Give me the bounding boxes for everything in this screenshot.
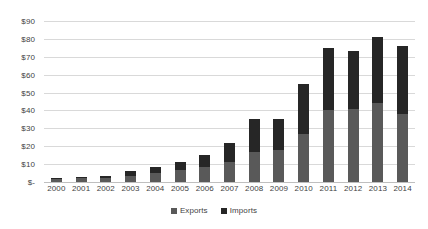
bar-segment-exports[interactable]: [372, 103, 383, 182]
x-axis-tick-label: 2009: [270, 184, 288, 193]
bar-group[interactable]: [51, 178, 62, 182]
bar-segment-exports[interactable]: [76, 178, 87, 182]
bar-segment-exports[interactable]: [298, 134, 309, 182]
x-axis-tick-label: 2014: [394, 184, 412, 193]
bar-group[interactable]: [397, 46, 408, 182]
bar-segment-imports[interactable]: [76, 177, 87, 179]
y-axis-tick-label: $20: [21, 142, 35, 151]
bar-segment-imports[interactable]: [150, 167, 161, 173]
legend-entry[interactable]: Exports: [171, 206, 208, 215]
bar-segment-imports[interactable]: [372, 37, 383, 103]
bar-group[interactable]: [125, 171, 136, 182]
stacked-bar-chart: $-$10$20$30$40$50$60$70$80$90 2000200120…: [0, 0, 428, 229]
bar-segment-imports[interactable]: [224, 143, 235, 163]
bar-segment-exports[interactable]: [150, 173, 161, 182]
x-axis-tick-label: 2001: [72, 184, 90, 193]
y-axis-tick-label: $40: [21, 106, 35, 115]
bar-segment-exports[interactable]: [224, 162, 235, 182]
bar-group[interactable]: [323, 48, 334, 182]
x-axis-tick-label: 2003: [121, 184, 139, 193]
bar-segment-imports[interactable]: [51, 178, 62, 179]
y-axis: $-$10$20$30$40$50$60$70$80$90: [0, 21, 40, 182]
bar-segment-exports[interactable]: [175, 170, 186, 182]
y-axis-tick-label: $70: [21, 52, 35, 61]
bar-group[interactable]: [372, 37, 383, 182]
chart-legend: ExportsImports: [0, 206, 428, 215]
bar-segment-exports[interactable]: [199, 167, 210, 182]
x-axis-tick-label: 2000: [47, 184, 65, 193]
x-axis: 2000200120022003200420052006200720082009…: [44, 184, 415, 200]
bar-segment-imports[interactable]: [397, 46, 408, 114]
bar-segment-imports[interactable]: [323, 48, 334, 111]
bar-segment-exports[interactable]: [51, 179, 62, 182]
legend-swatch-icon: [221, 208, 227, 214]
bar-group[interactable]: [249, 119, 260, 182]
y-axis-tick-label: $80: [21, 34, 35, 43]
x-axis-tick-label: 2011: [320, 184, 338, 193]
y-axis-tick-label: $10: [21, 160, 35, 169]
y-axis-tick-label: $50: [21, 88, 35, 97]
bar-segment-exports[interactable]: [323, 110, 334, 182]
bar-segment-exports[interactable]: [273, 150, 284, 182]
bar-segment-imports[interactable]: [273, 119, 284, 149]
bar-segment-exports[interactable]: [348, 109, 359, 182]
x-axis-tick-label: 2013: [369, 184, 387, 193]
bar-segment-imports[interactable]: [298, 84, 309, 134]
y-axis-tick-label: $-: [28, 178, 35, 187]
bar-segment-imports[interactable]: [199, 155, 210, 167]
bar-group[interactable]: [224, 143, 235, 182]
x-axis-tick-label: 2012: [344, 184, 362, 193]
bar-group[interactable]: [175, 162, 186, 182]
x-axis-tick-label: 2005: [171, 184, 189, 193]
x-axis-tick-label: 2002: [97, 184, 115, 193]
bars-layer: [44, 21, 415, 182]
bar-segment-imports[interactable]: [175, 162, 186, 170]
x-axis-tick-label: 2006: [196, 184, 214, 193]
y-axis-tick-label: $30: [21, 124, 35, 133]
bar-group[interactable]: [76, 177, 87, 182]
bar-segment-imports[interactable]: [249, 119, 260, 151]
bar-segment-exports[interactable]: [249, 152, 260, 182]
legend-entry[interactable]: Imports: [221, 206, 257, 215]
bar-group[interactable]: [298, 84, 309, 182]
y-axis-tick-label: $60: [21, 70, 35, 79]
y-axis-tick-label: $90: [21, 17, 35, 26]
legend-label: Imports: [230, 206, 257, 215]
bar-segment-exports[interactable]: [100, 178, 111, 182]
bar-group[interactable]: [348, 51, 359, 182]
x-axis-tick-label: 2004: [146, 184, 164, 193]
x-axis-tick-label: 2008: [245, 184, 263, 193]
bar-group[interactable]: [273, 119, 284, 182]
axis-baseline: [44, 182, 415, 183]
bar-segment-exports[interactable]: [125, 176, 136, 182]
bar-segment-imports[interactable]: [348, 51, 359, 108]
x-axis-tick-label: 2007: [220, 184, 238, 193]
legend-label: Exports: [180, 206, 208, 215]
bar-segment-exports[interactable]: [397, 114, 408, 182]
bar-group[interactable]: [100, 176, 111, 182]
legend-swatch-icon: [171, 208, 177, 214]
bar-segment-imports[interactable]: [125, 171, 136, 175]
bar-segment-imports[interactable]: [100, 176, 111, 178]
bar-group[interactable]: [150, 167, 161, 182]
bar-group[interactable]: [199, 155, 210, 182]
x-axis-tick-label: 2010: [295, 184, 313, 193]
